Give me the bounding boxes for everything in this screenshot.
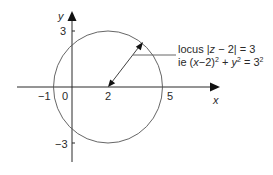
y-axis-arrow-icon [68, 11, 77, 21]
radius-line [110, 46, 140, 85]
y-axis-label: y [57, 10, 65, 22]
annotation-line-2: ie (x−2)2 + y2 = 32 [178, 56, 263, 68]
tick-label-5: 5 [167, 90, 173, 102]
tick-label-0: 0 [62, 90, 68, 102]
x-axis-label: x [212, 94, 219, 106]
tick-label-neg1: −1 [38, 90, 51, 102]
tick-label-3: 3 [60, 25, 66, 37]
annotation-line-1: locus |z − 2| = 3 [178, 43, 255, 55]
radius-arrowhead-inner-icon [108, 79, 115, 87]
tick-label-2: 2 [105, 90, 111, 102]
tick-label-neg3: −3 [55, 138, 68, 150]
x-axis-arrow-icon [210, 83, 220, 92]
locus-diagram: y x 3 −3 −1 0 2 5 [0, 0, 273, 175]
